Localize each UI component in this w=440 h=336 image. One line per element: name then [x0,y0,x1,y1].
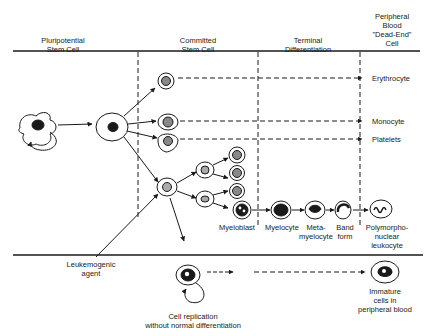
label-line: Polymorpho- [362,223,412,232]
label-line: nuclear [362,232,412,241]
header-text: Stem Cell [18,45,108,54]
header-text: Peripheral [362,12,422,21]
label-line: peripheral blood [355,305,415,314]
label-line: Cell replication [128,312,258,321]
label-line: Meta- [296,223,336,232]
header-committed: Committed Stem Cell [168,36,228,54]
header-text: Pluripotential [18,36,108,45]
label-platelets: Platelets [372,135,401,144]
label-line: without normal differentiation [128,321,258,330]
label-immature-cells: Immature cells in peripheral blood [355,287,415,314]
label-myeloblast: Myeloblast [212,223,262,232]
label-line: myelocyte [296,232,336,241]
label-line: cells in [355,296,415,305]
label-band-form: Band form [333,223,357,241]
label-line: Immature [355,287,415,296]
label-monocyte: Monocyte [372,117,405,126]
label-pmn: Polymorpho- nuclear leukocyte [362,223,412,250]
header-terminal: Terminal Differentiation [273,36,343,54]
header-text: "Dead-End" [362,30,422,39]
header-text: Terminal [273,36,343,45]
header-peripheral: Peripheral Blood "Dead-End" Cell [362,12,422,48]
label-line: form [333,232,357,241]
header-text: Cell [362,39,422,48]
label-cell-replication: Cell replication without normal differen… [128,312,258,330]
label-metamyelocyte: Meta- myelocyte [296,223,336,241]
header-text: Stem Cell [168,45,228,54]
header-text: Blood [362,21,422,30]
label-line: Band [333,223,357,232]
label-leukemogenic-agent: Leukemogenic agent [58,260,124,278]
label-line: Leukemogenic [58,260,124,269]
header-pluripotential: Pluripotential Stem Cell [18,36,108,54]
label-erythrocyte: Erythrocyte [372,74,410,83]
header-text: Committed [168,36,228,45]
label-line: agent [58,269,124,278]
label-line: leukocyte [362,241,412,250]
header-text: Differentiation [273,45,343,54]
pmn-icon [370,200,392,218]
